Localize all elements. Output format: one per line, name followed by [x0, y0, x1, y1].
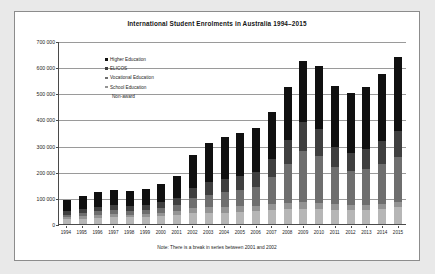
bar-column[interactable] — [362, 42, 370, 224]
x-axis-tick-label: 2000 — [156, 230, 166, 235]
bar-column[interactable] — [378, 42, 386, 224]
chart-legend: Higher EducationELICOSVocational Educati… — [105, 57, 154, 99]
chart-title: International Student Enrolments in Aust… — [15, 20, 419, 27]
x-axis-tick-label: 2006 — [251, 230, 261, 235]
x-axis-tick-mark — [256, 226, 257, 228]
bar-column[interactable] — [157, 42, 165, 224]
chart-card: International Student Enrolments in Aust… — [14, 11, 420, 261]
x-axis-tick-mark — [319, 226, 320, 228]
bar-segment — [157, 216, 165, 224]
x-axis-tick-mark — [240, 226, 241, 228]
x-axis-tick: 2001 — [173, 226, 181, 244]
bar-segment — [252, 187, 260, 206]
legend-item[interactable]: Vocational Education — [105, 75, 154, 80]
x-axis-tick: 2008 — [283, 226, 291, 244]
legend-label: Non-award — [112, 94, 135, 99]
bar-column[interactable] — [315, 42, 323, 224]
bar-column[interactable] — [236, 42, 244, 224]
x-axis-tick: 1996 — [94, 226, 102, 244]
x-axis-tick: 2000 — [157, 226, 165, 244]
bar-column[interactable] — [221, 42, 229, 224]
x-axis-labels: 1994199519961997199819992000200120022003… — [58, 226, 406, 244]
x-axis-tick-mark — [351, 226, 352, 228]
bar-segment — [299, 151, 307, 201]
chart-footnote: Note: There is a break in series between… — [15, 245, 419, 250]
bar-segment — [347, 171, 355, 205]
bar-segment — [142, 217, 150, 224]
bar-segment — [299, 202, 307, 209]
legend-item[interactable]: Higher Education — [105, 57, 154, 62]
bar-segment — [126, 191, 134, 206]
bar-column[interactable] — [79, 42, 87, 224]
x-axis-tick-label: 2014 — [377, 230, 387, 235]
legend-item[interactable]: School Education — [105, 85, 154, 90]
x-axis-tick-label: 1995 — [77, 230, 87, 235]
x-axis-tick: 2009 — [299, 226, 307, 244]
x-axis-tick-mark — [129, 226, 130, 228]
y-axis-tick-label: 500 000 — [37, 91, 55, 97]
bar-segment — [284, 203, 292, 210]
bar-segment — [79, 219, 87, 224]
bar-segment — [299, 122, 307, 152]
legend-swatch-icon — [105, 86, 108, 89]
bar-column[interactable] — [205, 42, 213, 224]
x-axis-tick: 2010 — [315, 226, 323, 244]
bar-column[interactable] — [173, 42, 181, 224]
bar-segment — [252, 128, 260, 172]
bar-segment — [205, 182, 213, 194]
bar-segment — [94, 192, 102, 206]
bar-column[interactable] — [394, 42, 402, 224]
bar-segment — [362, 169, 370, 205]
legend-swatch-icon — [105, 95, 108, 98]
bar-segment — [126, 217, 134, 224]
legend-label: School Education — [110, 85, 146, 90]
bar-segment — [378, 209, 386, 224]
x-axis-tick-label: 2011 — [330, 230, 340, 235]
x-axis-tick: 2006 — [252, 226, 260, 244]
bar-column[interactable] — [268, 42, 276, 224]
x-axis-tick: 2015 — [394, 226, 402, 244]
bar-segment — [299, 209, 307, 224]
x-axis-tick-mark — [382, 226, 383, 228]
x-axis-tick: 2014 — [378, 226, 386, 244]
bar-column[interactable] — [63, 42, 71, 224]
bar-column[interactable] — [331, 42, 339, 224]
bar-segment — [394, 157, 402, 202]
bar-segment — [362, 149, 370, 169]
x-axis-tick: 2011 — [331, 226, 339, 244]
bar-column[interactable] — [252, 42, 260, 224]
x-axis-tick: 2005 — [236, 226, 244, 244]
legend-label: ELICOS — [110, 66, 127, 71]
bar-column[interactable] — [94, 42, 102, 224]
legend-swatch-icon — [105, 67, 108, 70]
bar-segment — [284, 87, 292, 140]
bar-segment — [94, 218, 102, 224]
bar-column[interactable] — [189, 42, 197, 224]
x-axis-tick-label: 2015 — [393, 230, 403, 235]
bar-segment — [110, 190, 118, 205]
bar-segment — [315, 156, 323, 202]
legend-item[interactable]: Non-award — [105, 94, 154, 99]
bar-column[interactable] — [299, 42, 307, 224]
x-axis-tick-mark — [113, 226, 114, 228]
x-axis-tick-mark — [82, 226, 83, 228]
x-axis-tick: 2004 — [220, 226, 228, 244]
y-axis-tick-label: 700 000 — [37, 39, 55, 45]
x-axis-tick-label: 2008 — [282, 230, 292, 235]
legend-swatch-icon — [105, 58, 108, 61]
bar-segment — [221, 213, 229, 225]
bar-segment — [268, 112, 276, 159]
legend-item[interactable]: ELICOS — [105, 66, 154, 71]
page-root: International Student Enrolments in Aust… — [0, 0, 435, 274]
bar-segment — [378, 74, 386, 141]
x-axis-tick-mark — [224, 226, 225, 228]
bar-column[interactable] — [347, 42, 355, 224]
x-axis-tick-label: 1996 — [92, 230, 102, 235]
bar-segment — [236, 190, 244, 206]
bar-segment — [331, 167, 339, 204]
bar-segment — [331, 210, 339, 224]
bar-segment — [252, 172, 260, 187]
x-axis-tick-mark — [271, 226, 272, 228]
bar-segment — [315, 209, 323, 224]
bar-column[interactable] — [284, 42, 292, 224]
